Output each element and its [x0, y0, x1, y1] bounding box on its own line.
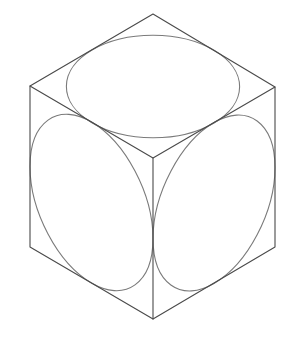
- diagram-canvas: Isometric cube with inscribed circles on…: [0, 0, 293, 339]
- cube-edges: [30, 14, 275, 319]
- isometric-cube-diagram: [0, 0, 293, 339]
- right-face-circle: [153, 87, 275, 319]
- top-face-circle: [31, 14, 276, 159]
- left-face-circle: [30, 86, 153, 319]
